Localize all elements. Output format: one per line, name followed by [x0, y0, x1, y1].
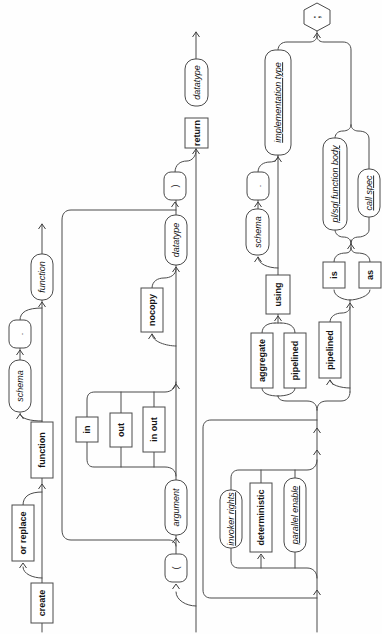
wire [317, 392, 350, 410]
wire [231, 548, 317, 578]
create-function-railroad-diagram: createor replacefunctionschema.function(… [0, 0, 382, 634]
parallel-enable-label: parallel enable [290, 486, 300, 546]
wire [20, 308, 42, 320]
nocopy-label: nocopy [147, 294, 157, 326]
node-function-name: function [31, 254, 53, 300]
arrowhead-icon [327, 380, 334, 385]
out-label: out [116, 423, 126, 437]
dot-1-label: . [15, 333, 25, 336]
wire [335, 125, 351, 138]
node-invoker-rights[interactable]: invoker rights [220, 490, 242, 548]
wire [317, 36, 351, 125]
datatype-argument-label: datatype [171, 223, 181, 258]
node-datatype-argument: datatype [165, 215, 187, 265]
wire [281, 323, 295, 333]
node-function-keyword: function [31, 422, 53, 478]
node-out: out [110, 413, 132, 447]
is-label: is [329, 271, 339, 279]
node-in: in [76, 417, 98, 442]
arrowhead-icon [172, 202, 179, 207]
node-pipelined-using: pipelined [284, 333, 306, 388]
node-schema-2: schema [246, 209, 269, 255]
node-aggregate: aggregate [251, 333, 273, 388]
node-datatype-return: datatype [185, 59, 208, 106]
node-return: return [185, 118, 208, 148]
invoker-rights-label: invoker rights [226, 492, 236, 546]
wire [262, 388, 278, 396]
node-in-out: in out [143, 407, 165, 452]
arrowhead-icon [173, 584, 180, 589]
close-paren-label: ) [170, 185, 180, 188]
wire [62, 210, 176, 546]
call-spec-label: call spec [364, 175, 374, 211]
pipelined-using-label: pipelined [290, 341, 300, 381]
node-argument: argument [165, 480, 187, 535]
in-out-label: in out [149, 417, 159, 442]
wire [20, 413, 42, 421]
node-schema-1: schema [9, 360, 31, 412]
node-create: create [31, 583, 53, 623]
wire [278, 396, 317, 410]
node-plsql-function-body[interactable]: pl/sql function body [323, 138, 347, 230]
wire [335, 230, 351, 244]
wire [351, 248, 370, 262]
node-deterministic: deterministic [250, 483, 272, 552]
aggregate-label: aggregate [257, 339, 267, 382]
node-close-paren: ) [164, 172, 186, 200]
node-nocopy: nocopy [141, 288, 163, 332]
wire [334, 290, 350, 300]
wire [176, 592, 196, 606]
wire [258, 156, 278, 172]
wire [258, 257, 278, 268]
open-paren-label: ( [171, 567, 181, 570]
in-label: in [82, 426, 92, 434]
return-label: return [192, 120, 202, 146]
arrowhead-icon [17, 414, 24, 419]
node-using: using [266, 275, 290, 314]
node-open-paren: ( [165, 554, 187, 582]
node-or-replace: or replace [12, 505, 34, 561]
diagram-nodes: createor replacefunctionschema.function(… [9, 3, 381, 623]
datatype-return-label: datatype [192, 65, 202, 100]
node-dot-1: . [9, 320, 31, 348]
implementation-type-label: implementation type [273, 62, 283, 143]
node-call-spec[interactable]: call spec [358, 169, 380, 217]
function-keyword-label: function [37, 432, 47, 468]
wire [152, 334, 176, 346]
node-as: as [359, 262, 381, 288]
wire [351, 217, 369, 244]
node-parallel-enable[interactable]: parallel enable [284, 478, 306, 552]
node-dot-2: . [247, 172, 269, 200]
wire [23, 492, 42, 505]
wire [278, 388, 295, 396]
wire [351, 125, 369, 169]
or-replace-label: or replace [18, 511, 28, 554]
wire [23, 567, 42, 578]
rotated-diagram-canvas: createor replacefunctionschema.function(… [0, 0, 382, 634]
node-implementation-type[interactable]: implementation type [265, 50, 291, 155]
deterministic-label: deterministic [256, 489, 266, 545]
schema-2-label: schema [253, 216, 263, 248]
wire [262, 323, 275, 333]
semicolon-label: ; [311, 15, 322, 18]
create-label: create [37, 590, 47, 617]
dot-2-label: . [253, 185, 263, 188]
syntax-diagram-page: createor replacefunctionschema.function(… [0, 0, 382, 634]
wire [334, 248, 351, 262]
plsql-function-body-label: pl/sql function body [330, 145, 340, 224]
schema-1-label: schema [15, 370, 25, 402]
pipelined-is-label: pipelined [325, 330, 335, 370]
node-semicolon: ; [304, 3, 330, 31]
wire [278, 36, 317, 50]
node-pipelined-is: pipelined [319, 322, 341, 378]
argument-label: argument [171, 488, 181, 527]
wire [350, 290, 370, 300]
as-label: as [365, 270, 375, 280]
using-label: using [273, 283, 283, 307]
wire [330, 307, 350, 322]
node-is: is [323, 262, 345, 288]
function-name-label: function [37, 261, 47, 293]
